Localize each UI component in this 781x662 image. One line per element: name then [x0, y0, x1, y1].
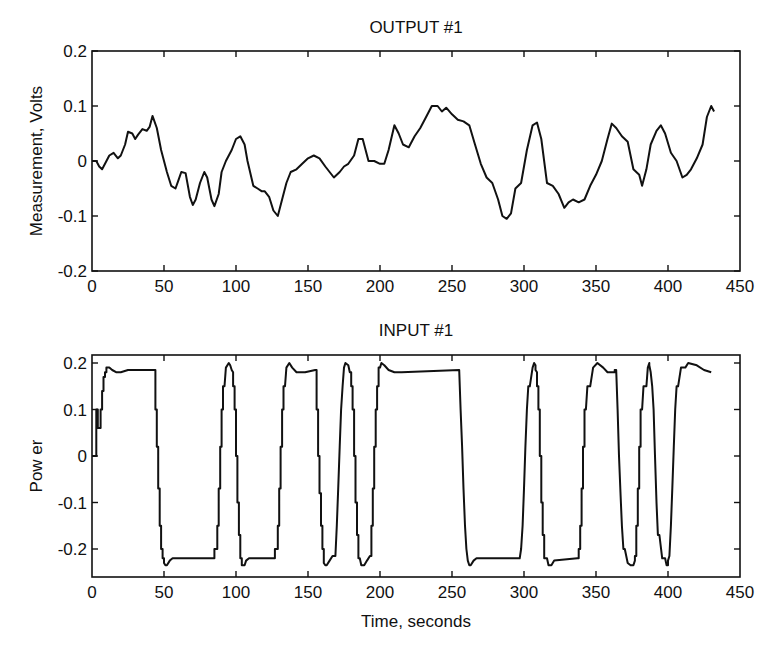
input-plot: INPUT #1 Pow er 0.20.10-0.1-0.2 05010015…: [27, 321, 754, 631]
output-plot: OUTPUT #1 Measurement, Volts 0.20.10-0.1…: [27, 18, 754, 296]
x-tick-label: 450: [726, 277, 754, 296]
x-tick-label: 50: [155, 277, 174, 296]
input-plot-xlabel: Time, seconds: [361, 612, 471, 631]
x-tick-label: 350: [582, 583, 610, 602]
input-plot-ylabel: Pow er: [27, 439, 46, 492]
x-tick-label: 300: [510, 583, 538, 602]
output-plot-title: OUTPUT #1: [369, 18, 462, 37]
x-tick-label: 0: [87, 277, 96, 296]
y-tick-label: -0.2: [58, 540, 87, 559]
output-plot-frame: [92, 51, 740, 271]
y-tick-label: 0.1: [63, 401, 87, 420]
y-tick-label: 0.2: [63, 354, 87, 373]
output-series-line: [92, 106, 714, 219]
input-plot-yticks: 0.20.10-0.1-0.2: [58, 354, 740, 559]
y-tick-label: 0: [78, 447, 87, 466]
input-series-line: [92, 363, 711, 565]
figure: OUTPUT #1 Measurement, Volts 0.20.10-0.1…: [0, 0, 781, 662]
x-tick-label: 100: [222, 277, 250, 296]
input-plot-xticks: 050100150200250300350400450: [87, 355, 754, 602]
x-tick-label: 200: [366, 277, 394, 296]
x-tick-label: 100: [222, 583, 250, 602]
x-tick-label: 0: [87, 583, 96, 602]
y-tick-label: 0: [78, 152, 87, 171]
y-tick-label: 0.2: [63, 42, 87, 61]
output-plot-yticks: 0.20.10-0.1-0.2: [58, 42, 740, 281]
x-tick-label: 300: [510, 277, 538, 296]
x-tick-label: 250: [438, 277, 466, 296]
input-plot-title: INPUT #1: [379, 321, 453, 340]
x-tick-label: 50: [155, 583, 174, 602]
x-tick-label: 150: [294, 277, 322, 296]
y-tick-label: -0.2: [58, 262, 87, 281]
x-tick-label: 350: [582, 277, 610, 296]
x-tick-label: 400: [654, 583, 682, 602]
y-tick-label: -0.1: [58, 494, 87, 513]
x-tick-label: 150: [294, 583, 322, 602]
output-plot-ylabel: Measurement, Volts: [27, 86, 46, 236]
x-tick-label: 450: [726, 583, 754, 602]
x-tick-label: 400: [654, 277, 682, 296]
x-tick-label: 250: [438, 583, 466, 602]
y-tick-label: 0.1: [63, 97, 87, 116]
y-tick-label: -0.1: [58, 207, 87, 226]
output-plot-xticks: 050100150200250300350400450: [87, 51, 754, 296]
x-tick-label: 200: [366, 583, 394, 602]
